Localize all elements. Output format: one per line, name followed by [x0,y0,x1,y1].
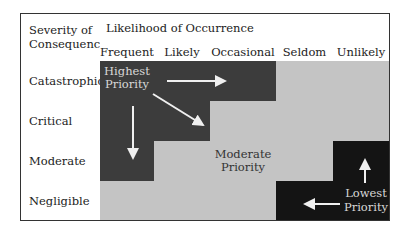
likelihood-title: Likelihood of Occurrence [106,21,254,35]
column-label: Occasional [211,45,275,59]
column-header-likely: Likely [154,42,211,62]
row-header-negligible: Negligible [20,181,101,221]
row-label: Moderate [29,154,86,168]
row-header-moderate: Moderate [20,141,101,182]
row-header-critical: Critical [20,101,101,142]
column-label: Likely [164,45,199,59]
column-header-occasional: Occasional [210,42,277,62]
moderate-priority-label-2: Priority [215,161,272,174]
cell-moderate-occasional: Moderate Priority [210,141,277,182]
row-header-catastrophic: Catastrophic [20,61,101,102]
cell-moderate-seldom [276,141,334,182]
cell-negligible-seldom [276,181,334,221]
column-header-seldom: Seldom [276,42,334,62]
lowest-priority-label-1: Lowest [344,187,388,200]
likelihood-header: Likelihood of Occurrence [100,13,390,43]
column-header-unlikely: Unlikely [333,42,390,62]
cell-catastrophic-occasional [210,61,277,102]
cell-negligible-occasional [210,181,277,221]
cell-catastrophic-unlikely [333,61,390,102]
row-label: Catastrophic [29,74,104,88]
column-label: Frequent [100,45,154,59]
corner-header: Severity of Consequences [20,13,101,62]
cell-moderate-unlikely [333,141,390,182]
cell-negligible-unlikely: Lowest Priority [333,181,390,221]
cell-critical-frequent [100,101,155,142]
cell-negligible-frequent [100,181,155,221]
lowest-priority-label-2: Priority [344,201,388,214]
cell-negligible-likely [154,181,211,221]
cell-moderate-likely [154,141,211,182]
row-label: Critical [29,114,72,128]
cell-critical-likely [154,101,211,142]
cell-catastrophic-likely [154,61,211,102]
row-label: Negligible [29,194,89,208]
cell-critical-unlikely [333,101,390,142]
cell-critical-occasional [210,101,277,142]
column-label: Seldom [283,45,327,59]
column-label: Unlikely [337,45,385,59]
cell-catastrophic-frequent: Highest Priority [100,61,155,102]
column-header-frequent: Frequent [100,42,155,62]
cell-critical-seldom [276,101,334,142]
highest-priority-label-2: Priority [104,78,150,91]
cell-moderate-frequent [100,141,155,182]
cell-catastrophic-seldom [276,61,334,102]
